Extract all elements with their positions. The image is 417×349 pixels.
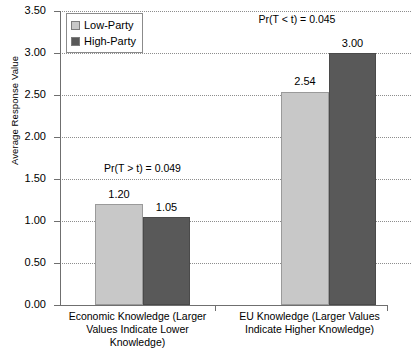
- x-category-label-economic-knowledge: Economic Knowledge (Larger Values Indica…: [60, 310, 215, 349]
- y-tick-label-3-50: 3.50: [0, 5, 46, 16]
- legend-swatch-high-party-icon: [71, 37, 80, 46]
- x-category-line-1: Economic Knowledge (Larger: [60, 310, 215, 323]
- x-category-line-1: EU Knowledge (Larger Values: [232, 310, 387, 323]
- chart-legend: Low-Party High-Party: [66, 13, 143, 53]
- value-label-high-party-eu: 3.00: [329, 38, 376, 49]
- y-tick-label-3-00: 3.00: [0, 47, 46, 58]
- gridline-3-50: [60, 11, 411, 12]
- y-tick-2-50: [54, 95, 60, 96]
- x-tick-separator: [215, 305, 216, 311]
- legend-item-high-party: High-Party: [71, 33, 136, 49]
- legend-label-high-party: High-Party: [84, 36, 136, 47]
- y-axis-line: [60, 11, 61, 305]
- y-tick-label-0-00: 0.00: [0, 299, 46, 310]
- y-tick-3-00: [54, 53, 60, 54]
- y-tick-3-50: [54, 11, 60, 12]
- y-tick-2-00: [54, 137, 60, 138]
- x-axis-line: [60, 305, 387, 306]
- y-tick-label-0-50: 0.50: [0, 257, 46, 268]
- y-tick-1-50: [54, 179, 60, 180]
- y-tick-label-1-50: 1.50: [0, 173, 46, 184]
- annotation-eu-knowledge: Pr(T < t) = 0.045: [218, 14, 376, 25]
- bar-low-party-eu-knowledge: [281, 92, 329, 305]
- value-label-low-party-eu: 2.54: [281, 76, 329, 87]
- x-tick-end: [387, 305, 388, 311]
- bar-high-party-economic-knowledge: [143, 217, 190, 305]
- legend-swatch-low-party-icon: [71, 21, 80, 30]
- value-label-low-party-economic: 1.20: [95, 189, 143, 200]
- x-category-line-2: Indicate Higher Knowledge): [232, 323, 387, 336]
- y-tick-label-2-50: 2.50: [0, 89, 46, 100]
- y-tick-0-00: [54, 305, 60, 306]
- bar-high-party-eu-knowledge: [329, 53, 376, 305]
- legend-label-low-party: Low-Party: [84, 20, 134, 31]
- y-tick-0-50: [54, 263, 60, 264]
- y-tick-label-1-00: 1.00: [0, 215, 46, 226]
- y-tick-label-2-00: 2.00: [0, 131, 46, 142]
- annotation-economic-knowledge: Pr(T > t) = 0.049: [70, 163, 215, 174]
- x-category-label-eu-knowledge: EU Knowledge (Larger Values Indicate Hig…: [232, 310, 387, 336]
- value-label-high-party-economic: 1.05: [143, 202, 190, 213]
- legend-item-low-party: Low-Party: [71, 17, 136, 33]
- bar-low-party-economic-knowledge: [95, 204, 143, 305]
- y-tick-1-00: [54, 221, 60, 222]
- x-category-line-2: Values Indicate Lower Knowledge): [60, 323, 215, 349]
